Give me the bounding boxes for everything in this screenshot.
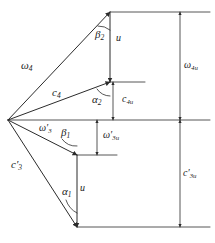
label-c4: c4 (52, 87, 61, 100)
label-c3u-prime: c′3u (183, 168, 196, 180)
label-omega3-prime: ω′3 (39, 123, 52, 135)
label-omega3u-prime: ω′3u (103, 130, 119, 142)
label-beta2: β2 (95, 29, 104, 42)
label-u-top: u (116, 33, 121, 43)
label-omega4u: ω4u (184, 60, 198, 72)
label-beta1: β1 (61, 127, 70, 140)
label-alpha2: α2 (92, 94, 102, 107)
label-c3-prime: c′3 (11, 159, 22, 172)
angle-arc-alpha1 (66, 200, 77, 213)
label-omega4: ω4 (21, 60, 33, 73)
velocity-triangle-figure: ω4 c4 β2 u α2 c4u ω4u ω′3 β1 ω′3u c′3 α1… (0, 0, 215, 243)
label-alpha1: α1 (62, 186, 72, 199)
label-c4u: c4u (122, 94, 133, 106)
diagram-canvas (0, 0, 215, 243)
label-u-bottom: u (80, 183, 85, 193)
